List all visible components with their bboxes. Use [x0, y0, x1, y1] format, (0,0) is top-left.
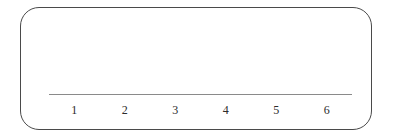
x-axis-tick-label-row: 1 2 3 4 5 6: [49, 100, 352, 122]
x-axis-tick-label-2: 2: [100, 100, 151, 122]
x-axis-tick-label-4: 4: [201, 100, 252, 122]
x-axis-line: [49, 94, 352, 95]
plot-area: [49, 16, 352, 94]
x-axis-tick-label-5: 5: [251, 100, 302, 122]
figure-root: 1 2 3 4 5 6: [0, 0, 393, 138]
x-axis-tick-label-6: 6: [302, 100, 353, 122]
x-axis-tick-label-3: 3: [150, 100, 201, 122]
x-axis-tick-label-1: 1: [49, 100, 100, 122]
